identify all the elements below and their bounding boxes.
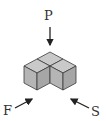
arrow-f — [15, 99, 32, 108]
label-s: S — [91, 105, 100, 118]
isometric-diagram — [0, 0, 106, 121]
arrow-s — [71, 99, 89, 108]
cube-block — [24, 52, 76, 90]
label-p: P — [44, 9, 53, 22]
label-f: F — [3, 104, 12, 117]
